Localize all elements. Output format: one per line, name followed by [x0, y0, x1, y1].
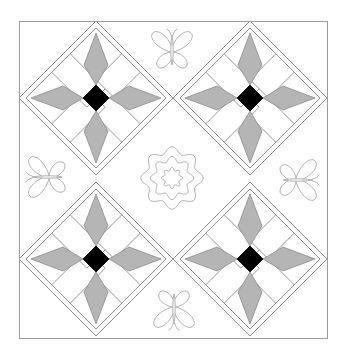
quilt-diagram [0, 0, 346, 363]
